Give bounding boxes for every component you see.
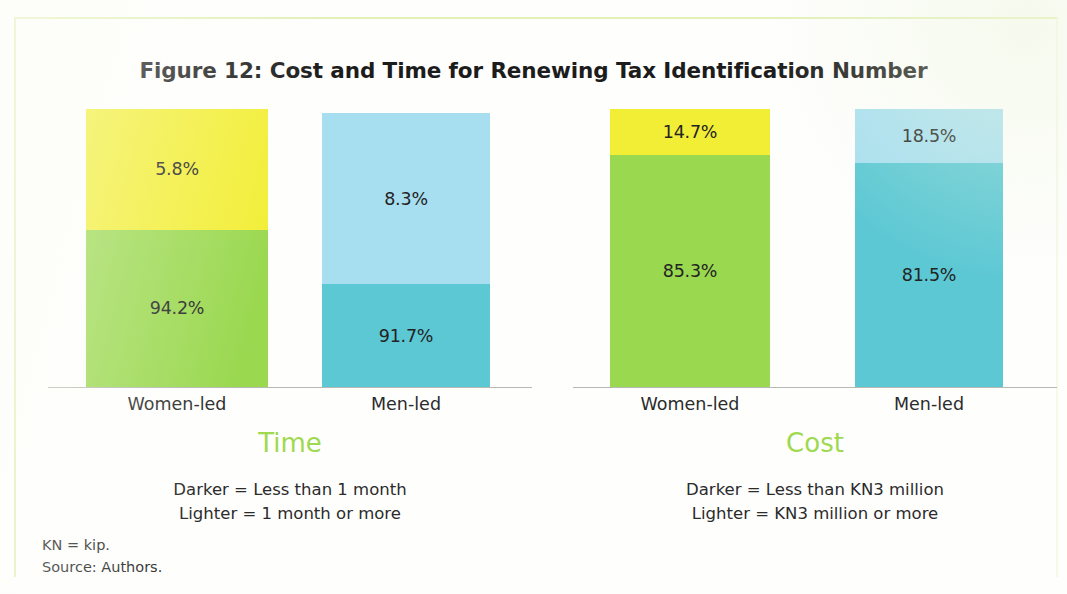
x-axis-line <box>573 387 1057 388</box>
bar-segment-label: 14.7% <box>663 122 718 142</box>
bar-time-women-led[interactable]: 5.8% 94.2% <box>86 109 268 387</box>
category-label-women-led: Women-led <box>86 394 268 414</box>
footnote-abbreviation: KN = kip. <box>42 535 162 557</box>
legend-line-lighter: Lighter = 1 month or more <box>40 502 540 526</box>
panel-caption-time: Time <box>40 428 540 458</box>
legend-note-cost: Darker = Less than KN3 million Lighter =… <box>565 478 1065 526</box>
bar-segment-label: 85.3% <box>663 261 718 281</box>
bar-segment-label: 94.2% <box>150 298 205 318</box>
category-label-men-led: Men-led <box>855 394 1003 414</box>
figure-title: Figure 12: Cost and Time for Renewing Ta… <box>0 58 1067 83</box>
bar-segment-label: 18.5% <box>902 126 957 146</box>
legend-line-lighter: Lighter = KN3 million or more <box>565 502 1065 526</box>
bar-segment-label: 5.8% <box>155 159 199 179</box>
category-label-men-led: Men-led <box>322 394 490 414</box>
plot-area-cost: 14.7% 85.3% 18.5% 81.5% <box>565 110 1065 388</box>
legend-line-darker: Darker = Less than 1 month <box>40 478 540 502</box>
x-axis-line <box>48 387 532 388</box>
bar-segment-lighter: 5.8% <box>86 109 268 230</box>
bar-segment-label: 91.7% <box>379 326 434 346</box>
category-label-women-led: Women-led <box>610 394 770 414</box>
bar-segment-lighter: 14.7% <box>610 109 770 155</box>
bar-segment-lighter: 18.5% <box>855 109 1003 163</box>
category-labels-cost: Women-led Men-led <box>565 394 1065 420</box>
bar-segment-label: 8.3% <box>384 189 428 209</box>
plot-area-time: 5.8% 94.2% 8.3% 91.7% <box>40 110 540 388</box>
bar-time-men-led[interactable]: 8.3% 91.7% <box>322 113 490 387</box>
bar-segment-darker: 85.3% <box>610 155 770 387</box>
bar-segment-darker: 94.2% <box>86 230 268 387</box>
legend-note-time: Darker = Less than 1 month Lighter = 1 m… <box>40 478 540 526</box>
bar-segment-darker: 81.5% <box>855 163 1003 387</box>
legend-line-darker: Darker = Less than KN3 million <box>565 478 1065 502</box>
bar-cost-women-led[interactable]: 14.7% 85.3% <box>610 109 770 387</box>
footnote-source: Source: Authors. <box>42 557 162 579</box>
bar-cost-men-led[interactable]: 18.5% 81.5% <box>855 109 1003 387</box>
bar-segment-lighter: 8.3% <box>322 113 490 284</box>
bar-segment-darker: 91.7% <box>322 284 490 387</box>
bar-segment-label: 81.5% <box>902 265 957 285</box>
chart-panel-time: 5.8% 94.2% 8.3% 91.7% Women-led Men-led … <box>40 110 540 570</box>
chart-panel-cost: 14.7% 85.3% 18.5% 81.5% Women-led Men-le… <box>565 110 1065 570</box>
category-labels-time: Women-led Men-led <box>40 394 540 420</box>
footnotes: KN = kip. Source: Authors. <box>42 535 162 579</box>
panel-caption-cost: Cost <box>565 428 1065 458</box>
